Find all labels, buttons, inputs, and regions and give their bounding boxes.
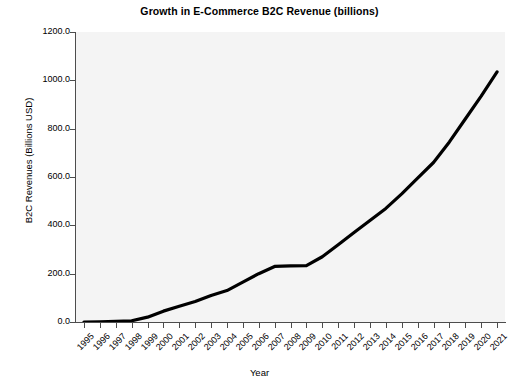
y-tick-mark <box>70 225 75 226</box>
x-axis-title: Year <box>0 367 519 378</box>
x-tick-mark <box>84 323 85 328</box>
x-tick-mark <box>148 323 149 328</box>
y-tick-mark <box>70 274 75 275</box>
chart-title: Growth in E-Commerce B2C Revenue (billio… <box>0 5 519 17</box>
x-tick-mark <box>116 323 117 328</box>
x-tick-mark <box>449 323 450 328</box>
line-series-svg <box>76 32 505 322</box>
x-tick-mark <box>211 323 212 328</box>
x-tick-mark <box>465 323 466 328</box>
x-tick-mark <box>402 323 403 328</box>
chart-figure: Growth in E-Commerce B2C Revenue (billio… <box>0 0 519 383</box>
x-tick-mark <box>354 323 355 328</box>
x-tick-mark <box>370 323 371 328</box>
y-tick-label: 800.0 <box>4 123 70 133</box>
x-tick-mark <box>306 323 307 328</box>
x-tick-mark <box>338 323 339 328</box>
y-tick-mark <box>70 80 75 81</box>
x-tick-mark <box>275 323 276 328</box>
x-tick-mark <box>132 323 133 328</box>
x-tick-mark <box>100 323 101 328</box>
y-tick-mark <box>70 129 75 130</box>
y-tick-label: 0.0 <box>4 316 70 326</box>
y-tick-mark <box>70 32 75 33</box>
y-tick-mark <box>70 322 75 323</box>
y-tick-mark <box>70 177 75 178</box>
x-tick-mark <box>418 323 419 328</box>
x-tick-mark <box>481 323 482 328</box>
x-tick-mark <box>434 323 435 328</box>
plot-area <box>76 32 505 322</box>
x-tick-mark <box>163 323 164 328</box>
x-tick-mark <box>227 323 228 328</box>
x-tick-mark <box>386 323 387 328</box>
x-tick-mark <box>322 323 323 328</box>
x-tick-mark <box>497 323 498 328</box>
y-tick-label: 200.0 <box>4 268 70 278</box>
x-tick-mark <box>259 323 260 328</box>
revenue-line-series <box>84 72 497 322</box>
x-tick-mark <box>195 323 196 328</box>
y-tick-label: 400.0 <box>4 219 70 229</box>
x-tick-mark <box>243 323 244 328</box>
x-tick-mark <box>291 323 292 328</box>
x-tick-mark <box>179 323 180 328</box>
y-axis-title: B2C Revenues (Billions USD) <box>23 61 34 261</box>
y-tick-label: 600.0 <box>4 171 70 181</box>
y-tick-label: 1000.0 <box>4 74 70 84</box>
y-tick-label: 1200.0 <box>4 26 70 36</box>
